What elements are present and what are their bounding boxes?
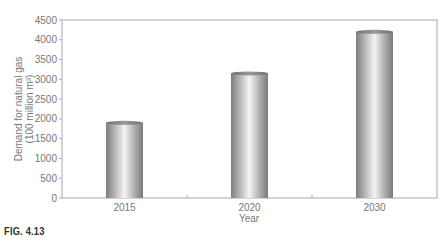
y-axis: 050010001500200025003000350040004500 — [35, 15, 62, 204]
y-axis-title: Demand for natural gas (100 million m³) — [13, 57, 35, 162]
x-tick-label: 2015 — [113, 202, 136, 213]
y-tick-label: 1500 — [35, 133, 58, 144]
x-tick-label: 2020 — [238, 202, 261, 213]
y-tick-label: 3500 — [35, 54, 58, 65]
y-axis-title-line1: Demand for natural gas — [13, 57, 24, 162]
y-tick-label: 500 — [40, 173, 57, 184]
bar-2015 — [106, 121, 143, 198]
y-tick-label: 2000 — [35, 113, 58, 124]
figure-caption: FIG. 4.13 — [4, 225, 45, 237]
bar-2030 — [356, 30, 393, 198]
y-tick-label: 1000 — [35, 153, 58, 164]
bars — [106, 30, 393, 198]
y-tick-label: 3000 — [35, 74, 58, 85]
y-tick-label: 2500 — [35, 94, 58, 105]
y-tick-label: 4500 — [35, 15, 58, 26]
bar-2020 — [231, 71, 268, 198]
x-axis-title: Year — [239, 213, 260, 224]
bar-chart: 050010001500200025003000350040004500 201… — [0, 0, 448, 243]
y-tick-label: 4000 — [35, 34, 58, 45]
y-tick-label: 0 — [51, 193, 57, 204]
y-axis-title-line2: (100 million m³) — [24, 75, 35, 144]
x-tick-label: 2030 — [363, 202, 386, 213]
